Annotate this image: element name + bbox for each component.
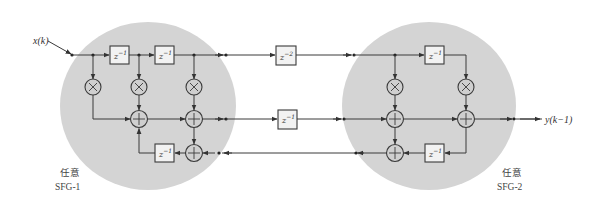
multiplier-icon <box>85 79 101 95</box>
adder-icon <box>458 111 475 128</box>
multiplier-icon <box>458 79 474 95</box>
adder-icon <box>387 111 404 128</box>
output-label: y(k−1) <box>544 114 573 126</box>
sfg1-region <box>60 22 236 190</box>
sfg1-caption-en: SFG-1 <box>55 182 81 192</box>
adder-icon <box>131 111 148 128</box>
sfg2-caption-en: SFG-2 <box>497 182 523 192</box>
sfg-diagram: x(k) z−1 z−1 z−2 z−1 <box>0 0 595 209</box>
adder-icon <box>186 111 203 128</box>
sfg1-caption-cn: 任意 <box>60 167 80 178</box>
sfg2-caption-cn: 任意 <box>502 167 522 178</box>
adder-icon <box>387 145 404 162</box>
cut-node <box>217 151 220 154</box>
input-label: x(k) <box>32 35 49 47</box>
adder-icon <box>186 145 203 162</box>
multiplier-icon <box>131 79 147 95</box>
cut-node <box>354 151 357 154</box>
input-arrow <box>48 41 71 54</box>
multiplier-icon <box>186 79 202 95</box>
multiplier-icon <box>387 79 403 95</box>
